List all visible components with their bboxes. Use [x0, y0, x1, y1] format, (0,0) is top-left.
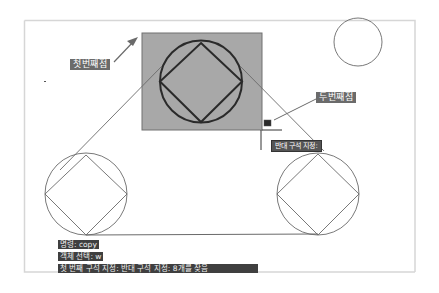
stray-point — [44, 81, 46, 82]
command-line-row: 객체 선택: w — [58, 252, 103, 261]
second-corner-pointer-line — [274, 99, 316, 120]
first-corner-callout: 첫번째점 — [70, 59, 110, 70]
command-line-row: 명령: copy — [58, 240, 99, 249]
command-line-row: 첫 번째 구석 지정: 반대 구석 지정: 8개를 찾음 — [58, 264, 258, 273]
lone-circle — [334, 18, 382, 66]
drawing-canvas[interactable] — [0, 0, 439, 293]
cad-drawing — [0, 0, 439, 293]
opposite-corner-tooltip: 반대 구석 지정: — [271, 140, 322, 152]
cursor-pickbox-icon — [264, 120, 271, 126]
bottom-left-circle — [45, 153, 127, 235]
bottom-tangent-line — [86, 234, 318, 235]
arrow-head-icon — [127, 37, 138, 46]
bottom-right-circle — [277, 153, 359, 235]
second-corner-callout: 두번째점 — [316, 92, 356, 103]
